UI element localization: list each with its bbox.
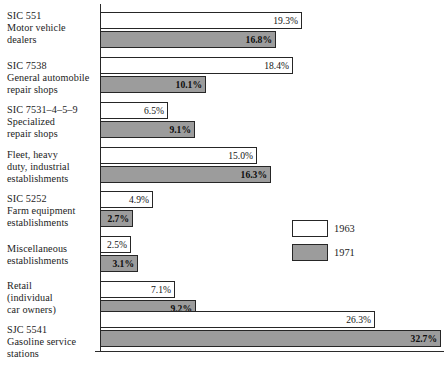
category-label-miscellaneous: Miscellaneous establishments xyxy=(7,243,99,267)
bar-1963-sic-7531: 6.5% xyxy=(100,102,168,119)
bar-1971-sic-5252: 2.7% xyxy=(100,210,133,227)
bar-value-label: 2.5% xyxy=(107,240,127,250)
bar-value-label: 7.1% xyxy=(151,285,171,295)
bar-value-label: 26.3% xyxy=(346,315,371,325)
bar-1971-sic-7531: 9.1% xyxy=(100,121,195,138)
bar-1971-sic-7538: 10.1% xyxy=(100,76,206,93)
bar-1963-retail: 7.1% xyxy=(100,281,175,298)
plot-area: 19.3% 16.8% 18.4% 10.1% 6.5% 9.1% 15.0% … xyxy=(100,0,444,372)
bar-1963-sjc-5541: 26.3% xyxy=(100,311,375,328)
bar-value-label: 2.7% xyxy=(107,214,129,224)
bar-1963-fleet-heavy: 15.0% xyxy=(100,147,257,164)
legend-label-1963: 1963 xyxy=(334,222,355,235)
bar-value-label: 16.8% xyxy=(246,35,272,45)
bar-1971-sjc-5541: 32.7% xyxy=(100,330,441,347)
bar-1963-sic-7538: 18.4% xyxy=(100,57,293,74)
category-label-fleet-heavy: Fleet, heavy duty, industrial establishm… xyxy=(7,149,99,185)
bar-value-label: 18.4% xyxy=(264,61,289,71)
category-label-sic-7531: SIC 7531–4–5–9 Specialized repair shops xyxy=(7,104,99,140)
category-label-retail: Retail (individual car owners) xyxy=(7,280,99,316)
legend-label-1971: 1971 xyxy=(334,246,355,259)
bar-value-label: 9.1% xyxy=(169,125,191,135)
bar-1971-sic-551: 16.8% xyxy=(100,31,276,48)
bar-value-label: 10.1% xyxy=(176,80,202,90)
bar-value-label: 15.0% xyxy=(228,151,253,161)
bar-1971-fleet-heavy: 16.3% xyxy=(100,166,271,183)
category-label-sic-7538: SIC 7538 General automobile repair shops xyxy=(7,60,99,96)
bar-value-label: 4.9% xyxy=(129,195,149,205)
bar-value-label: 19.3% xyxy=(273,16,298,26)
bar-value-label: 16.3% xyxy=(241,170,267,180)
bar-value-label: 32.7% xyxy=(411,334,437,344)
category-label-sic-551: SIC 551 Motor vehicle dealers xyxy=(7,10,99,46)
bar-1963-sic-5252: 4.9% xyxy=(100,191,153,208)
legend-swatch-1963 xyxy=(292,220,328,237)
bar-value-label: 6.5% xyxy=(144,106,164,116)
bar-1971-miscellaneous: 3.1% xyxy=(100,255,138,272)
bar-1963-miscellaneous: 2.5% xyxy=(100,236,131,253)
legend-swatch-1971 xyxy=(292,244,328,261)
bar-1963-sic-551: 19.3% xyxy=(100,12,302,29)
category-label-sic-5252: SIC 5252 Farm equipment establishments xyxy=(7,193,99,229)
horizontal-bar-chart: SIC 551 Motor vehicle dealers SIC 7538 G… xyxy=(0,0,444,372)
category-label-sjc-5541: SJC 5541 Gasoline service stations xyxy=(7,324,99,360)
bar-value-label: 3.1% xyxy=(112,259,134,269)
value-axis-baseline xyxy=(95,351,444,352)
